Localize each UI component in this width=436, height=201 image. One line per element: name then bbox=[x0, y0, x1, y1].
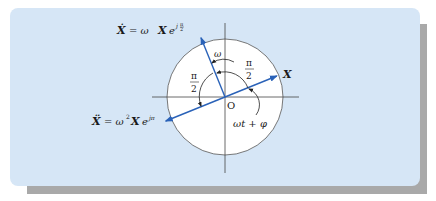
phasor-diagram: O X Ẋ = ω X e j π 2 Ẍ = ω 2 X e jπ ω π 2… bbox=[0, 0, 436, 201]
displacement-label: X bbox=[282, 68, 292, 81]
half-pi-right-den: 2 bbox=[246, 71, 252, 81]
half-pi-right-num: π bbox=[246, 58, 252, 68]
origin-label: O bbox=[227, 100, 235, 111]
half-pi-left-num: π bbox=[191, 71, 197, 81]
omega-label: ω bbox=[214, 49, 222, 59]
acceleration-exp: jπ bbox=[147, 114, 156, 122]
velocity-eq-omega: = ω bbox=[129, 25, 149, 36]
phase-label: ωt + φ bbox=[233, 118, 267, 129]
acceleration-eq-square: 2 bbox=[126, 113, 130, 120]
velocity-equation: Ẋ = ω X e j π 2 bbox=[116, 21, 184, 37]
acceleration-symbol: Ẍ bbox=[91, 114, 101, 128]
acceleration-equation: Ẍ = ω 2 X e jπ bbox=[91, 113, 156, 128]
velocity-eq-e: e bbox=[169, 25, 175, 36]
velocity-eq-X: X bbox=[157, 24, 167, 37]
acceleration-eq-e: e bbox=[142, 116, 148, 127]
acceleration-eq-X: X bbox=[130, 115, 140, 128]
velocity-symbol: Ẋ bbox=[116, 23, 126, 37]
half-pi-left-den: 2 bbox=[191, 84, 197, 94]
velocity-exp-den: 2 bbox=[180, 26, 183, 32]
acceleration-eq-omega: = ω bbox=[104, 116, 124, 127]
